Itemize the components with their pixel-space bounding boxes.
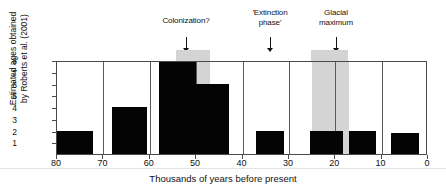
bar-3 (159, 62, 196, 154)
x-tick-label-50: 50 (184, 158, 206, 168)
x-tick-label-80: 80 (45, 158, 67, 168)
y-tick-label-6: 6 (3, 81, 17, 89)
annotation-extinction-phase-arrow (266, 37, 275, 52)
x-tick-label-70: 70 (91, 158, 113, 168)
annotation-colonization: Colonization? (131, 16, 241, 26)
glacial-maximum-band-overhang (311, 50, 348, 61)
gridline-70 (103, 62, 104, 154)
plot-area (56, 61, 427, 155)
y-tick-label-4: 4 (3, 104, 17, 112)
footer-divider (0, 168, 446, 169)
chart-figure: Colonization? 'Extinction phase' Glacial… (0, 0, 446, 195)
annotation-glacial-maximum-line-1: Glacial (291, 8, 381, 18)
bar-6 (310, 131, 343, 155)
x-axis-title: Thousands of years before present (0, 173, 446, 184)
annotation-glacial-maximum: Glacial maximum (291, 8, 381, 27)
bar-5 (256, 131, 284, 155)
x-tick-label-60: 60 (138, 158, 160, 168)
bar-2 (112, 107, 148, 154)
bar-1 (57, 131, 93, 155)
x-tick-label-30: 30 (277, 158, 299, 168)
bar-8 (391, 133, 420, 154)
y-tick-label-5: 5 (3, 92, 17, 100)
gridline-60 (150, 62, 151, 154)
x-tick-label-10: 10 (370, 158, 392, 168)
bar-4 (196, 84, 229, 155)
y-tick-label-3: 3 (3, 116, 17, 124)
gridline-40 (243, 62, 244, 154)
bar-7 (349, 131, 376, 155)
x-tick-label-0: 0 (416, 158, 438, 168)
y-tick-label-2: 2 (3, 128, 17, 136)
y-tick-label-7: 7 (3, 69, 17, 77)
y-axis-title-line-2: by Roberts et al. (2001) (18, 14, 28, 103)
y-tick-label-8: 8 (3, 57, 17, 65)
gridline-10 (382, 62, 383, 154)
annotation-glacial-maximum-line-2: maximum (291, 18, 381, 28)
annotation-colonization-line-1: Colonization? (131, 16, 241, 26)
gridline-30 (289, 62, 290, 154)
x-tick-label-40: 40 (231, 158, 253, 168)
x-tick-label-20: 20 (323, 158, 345, 168)
y-tick-label-1: 1 (3, 139, 17, 147)
colonization-band-overhang (176, 50, 209, 61)
